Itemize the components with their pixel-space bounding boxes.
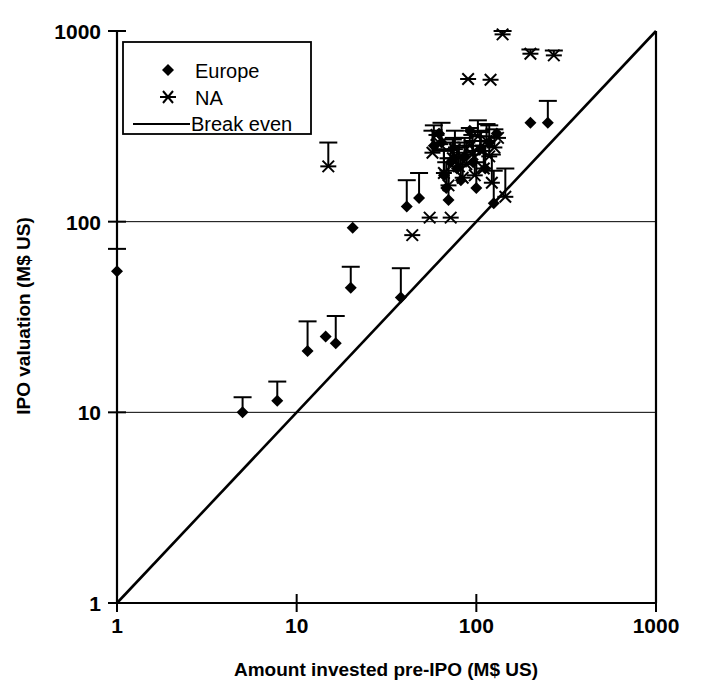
y-tick-label-1000: 1000 [54, 20, 101, 43]
data-point-europe [542, 117, 554, 129]
x-tick-label-1000: 1000 [633, 614, 680, 637]
legend-label-na: NA [195, 87, 223, 109]
chart-canvas: 11010010001101001000 Amount invested pre… [0, 0, 701, 697]
data-point-europe [320, 330, 332, 342]
data-point-europe [470, 182, 482, 194]
data-point-europe [330, 337, 342, 349]
y-tick-label-10: 10 [78, 401, 101, 424]
data-point-europe [237, 406, 249, 418]
data-point-europe [111, 265, 123, 277]
ipo-valuation-scatter-chart: 11010010001101001000 Amount invested pre… [0, 0, 701, 697]
data-point-europe [345, 282, 357, 294]
error-bar [319, 143, 337, 167]
data-point-europe [271, 395, 283, 407]
data-point-europe [524, 117, 536, 129]
x-axis-title: Amount invested pre-IPO (M$ US) [234, 659, 538, 680]
data-point-europe [347, 222, 359, 234]
y-tick-label-1: 1 [89, 592, 101, 615]
data-point-europe [413, 192, 425, 204]
data-point-na [460, 73, 476, 85]
data-point-europe [395, 292, 407, 304]
y-tick-label-100: 100 [66, 211, 101, 234]
x-tick-label-10: 10 [285, 614, 308, 637]
data-point-europe [401, 201, 413, 213]
chart-legend: Europe NA Break even [123, 42, 311, 135]
x-tick-label-100: 100 [459, 614, 494, 637]
data-point-na [483, 74, 499, 86]
y-axis-title: IPO valuation (M$ US) [13, 217, 34, 414]
data-point-europe [302, 345, 314, 357]
legend-label-break-even: Break even [191, 113, 292, 135]
legend-label-europe: Europe [195, 60, 260, 82]
data-point-na [404, 229, 420, 241]
data-point-europe [443, 194, 455, 206]
x-tick-label-1: 1 [111, 614, 123, 637]
